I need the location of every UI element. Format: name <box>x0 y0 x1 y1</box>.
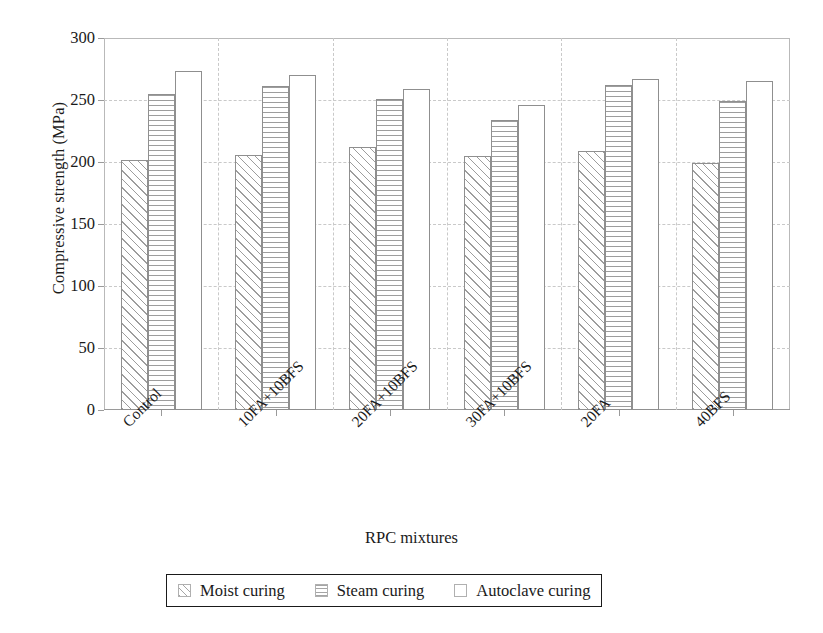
bar-moist <box>464 156 491 410</box>
y-tick-mark <box>98 410 104 411</box>
bar-group <box>692 38 773 410</box>
bar-autoclave <box>632 79 659 410</box>
bar-group <box>578 38 659 410</box>
legend-item: Steam curing <box>315 581 425 601</box>
bar-steam <box>376 99 403 410</box>
gridline-vertical <box>447 38 448 410</box>
legend-label: Moist curing <box>200 581 285 601</box>
y-tick-label: 150 <box>70 214 95 234</box>
y-tick-label: 100 <box>70 276 95 296</box>
y-tick-mark <box>98 348 104 349</box>
y-axis-title: Compressive strength (MPa) <box>49 33 69 363</box>
x-tick-mark <box>161 410 162 416</box>
x-tick-mark <box>276 410 277 416</box>
x-tick-mark <box>390 410 391 416</box>
legend-item: Moist curing <box>178 581 285 601</box>
gridline-vertical <box>561 38 562 410</box>
x-tick-mark <box>504 410 505 416</box>
y-tick-label: 300 <box>70 28 95 48</box>
x-tick-mark <box>733 410 734 416</box>
bar-moist <box>692 163 719 410</box>
chart-legend: Moist curingSteam curingAutoclave curing <box>166 574 602 607</box>
bar-steam <box>148 94 175 410</box>
bar-group <box>121 38 202 410</box>
gridline-vertical <box>218 38 219 410</box>
legend-swatch-autoclave-icon <box>454 584 467 597</box>
bar-autoclave <box>746 81 773 410</box>
bar-steam <box>262 86 289 410</box>
y-tick-label: 200 <box>70 152 95 172</box>
y-tick-mark <box>98 224 104 225</box>
x-tick-mark <box>619 410 620 416</box>
gridline-vertical <box>333 38 334 410</box>
legend-swatch-steam-icon <box>315 584 328 597</box>
bar-moist <box>235 155 262 410</box>
y-tick-mark <box>98 286 104 287</box>
bar-autoclave <box>175 71 202 410</box>
bar-moist <box>578 151 605 410</box>
gridline-vertical <box>676 38 677 410</box>
x-axis-title: RPC mixtures <box>0 528 823 548</box>
bar-group <box>464 38 545 410</box>
y-tick-mark <box>98 162 104 163</box>
bar-moist <box>121 160 148 410</box>
legend-swatch-moist-icon <box>178 584 191 597</box>
plot-area: 050100150200250300 <box>104 38 790 410</box>
bar-group <box>235 38 316 410</box>
y-tick-label: 50 <box>79 338 96 358</box>
y-tick-mark <box>98 100 104 101</box>
bar-steam <box>719 101 746 410</box>
legend-label: Autoclave curing <box>476 581 590 601</box>
bar-moist <box>349 147 376 410</box>
bar-chart-figure: Compressive strength (MPa) 0501001502002… <box>0 0 823 633</box>
bar-group <box>349 38 430 410</box>
legend-label: Steam curing <box>337 581 425 601</box>
y-tick-label: 0 <box>87 400 95 420</box>
bar-steam <box>605 85 632 410</box>
y-tick-label: 250 <box>70 90 95 110</box>
legend-item: Autoclave curing <box>454 581 590 601</box>
y-tick-mark <box>98 38 104 39</box>
